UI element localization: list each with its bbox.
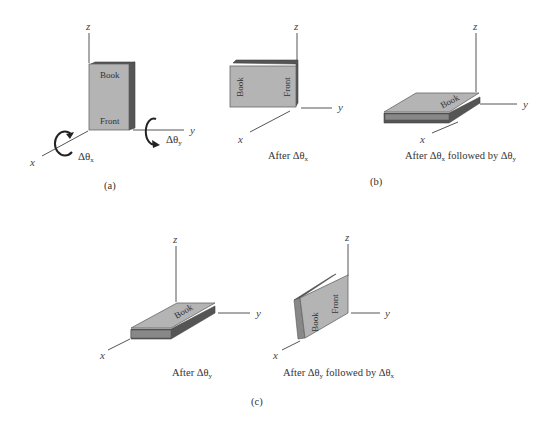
x-axis-label: x — [237, 133, 243, 145]
y-axis-label: y — [337, 101, 343, 113]
panel-a: z y x Book Front Δθx Δθy (a) — [29, 20, 195, 192]
delta-theta-x-label: Δθx — [78, 150, 94, 164]
book-front-label: Front — [100, 116, 120, 126]
caption-after-dtheta-x: After Δθx — [268, 150, 309, 163]
x-axis — [282, 341, 300, 350]
book-title: Book — [100, 70, 120, 80]
book-rotated-y: Book — [131, 302, 215, 339]
book-page-edge — [131, 330, 171, 338]
panel-b-label: (b) — [370, 176, 383, 188]
book-title: Book — [310, 312, 320, 332]
book-rotated-x: Book Front — [230, 60, 298, 107]
x-axis-label: x — [419, 133, 425, 145]
book-cover — [300, 275, 348, 338]
y-axis-label: y — [255, 307, 261, 319]
panel-a-label: (a) — [104, 180, 116, 192]
book-page-edge — [385, 114, 449, 120]
x-axis-label: x — [272, 349, 278, 361]
rotation-arrow-y-icon — [146, 119, 160, 149]
book-upright: Book Front — [89, 62, 135, 130]
z-axis-label: z — [172, 233, 178, 245]
book-rotated-x-then-y: Book — [384, 92, 480, 123]
x-axis — [108, 339, 130, 350]
caption-after-dtheta-x-then-y: After Δθx followed by Δθy — [405, 150, 517, 163]
y-axis-label: y — [384, 307, 390, 319]
z-axis-label: z — [293, 20, 299, 32]
panel-c-right: z y x Book Front After Δθy followed by Δ… — [272, 231, 395, 380]
book-title: Book — [235, 77, 245, 97]
book-front-label: Front — [282, 77, 292, 97]
z-axis-label: z — [85, 20, 91, 32]
book-front-label: Front — [330, 294, 340, 314]
panel-c-label: (c) — [251, 396, 263, 408]
panel-b-right: z y x Book After Δθx followed by Δθy (b) — [370, 20, 528, 188]
y-axis-label: y — [189, 124, 195, 136]
panel-c-left: z y x Book After Δθy — [99, 233, 261, 380]
x-axis — [250, 111, 290, 132]
x-axis — [432, 122, 458, 133]
x-axis-label: x — [29, 156, 35, 168]
rotation-diagram: z y x Book Front Δθx Δθy (a) z — [0, 0, 555, 421]
caption-after-dtheta-y: After Δθy — [172, 367, 213, 380]
delta-theta-y-label: Δθy — [166, 133, 182, 147]
panel-b-left: z y x Book Front After Δθx — [230, 20, 343, 163]
z-axis-label: z — [344, 231, 350, 243]
book-spine — [129, 62, 135, 130]
z-axis-label: z — [472, 20, 478, 32]
y-axis-label: y — [522, 98, 528, 110]
caption-after-dtheta-y-then-x: After Δθy followed by Δθx — [283, 367, 395, 380]
book-rotated-y-then-x: Book Front — [294, 274, 348, 339]
x-axis-label: x — [99, 349, 105, 361]
